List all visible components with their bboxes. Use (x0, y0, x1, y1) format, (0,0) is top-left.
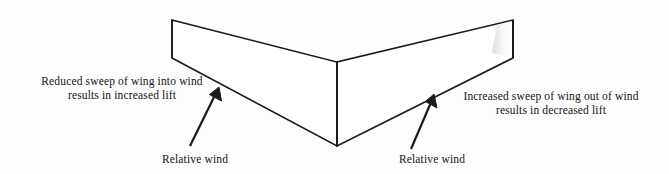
callout-left-wing: Reduced sweep of wing into wind results … (22, 74, 222, 102)
label-relative-wind-right: Relative wind (372, 152, 492, 166)
callout-right-line1: Increased sweep of wing out of wind (443, 89, 659, 103)
right-wing-panel (337, 20, 513, 146)
callout-right-wing: Increased sweep of wing out of wind resu… (443, 89, 659, 117)
callout-left-line1: Reduced sweep of wing into wind (22, 74, 222, 88)
label-relative-wind-left: Relative wind (135, 152, 255, 166)
callout-right-line2: results in decreased lift (443, 103, 659, 117)
callout-left-line2: results in increased lift (22, 88, 222, 102)
diagram-canvas: Reduced sweep of wing into wind results … (0, 0, 669, 174)
